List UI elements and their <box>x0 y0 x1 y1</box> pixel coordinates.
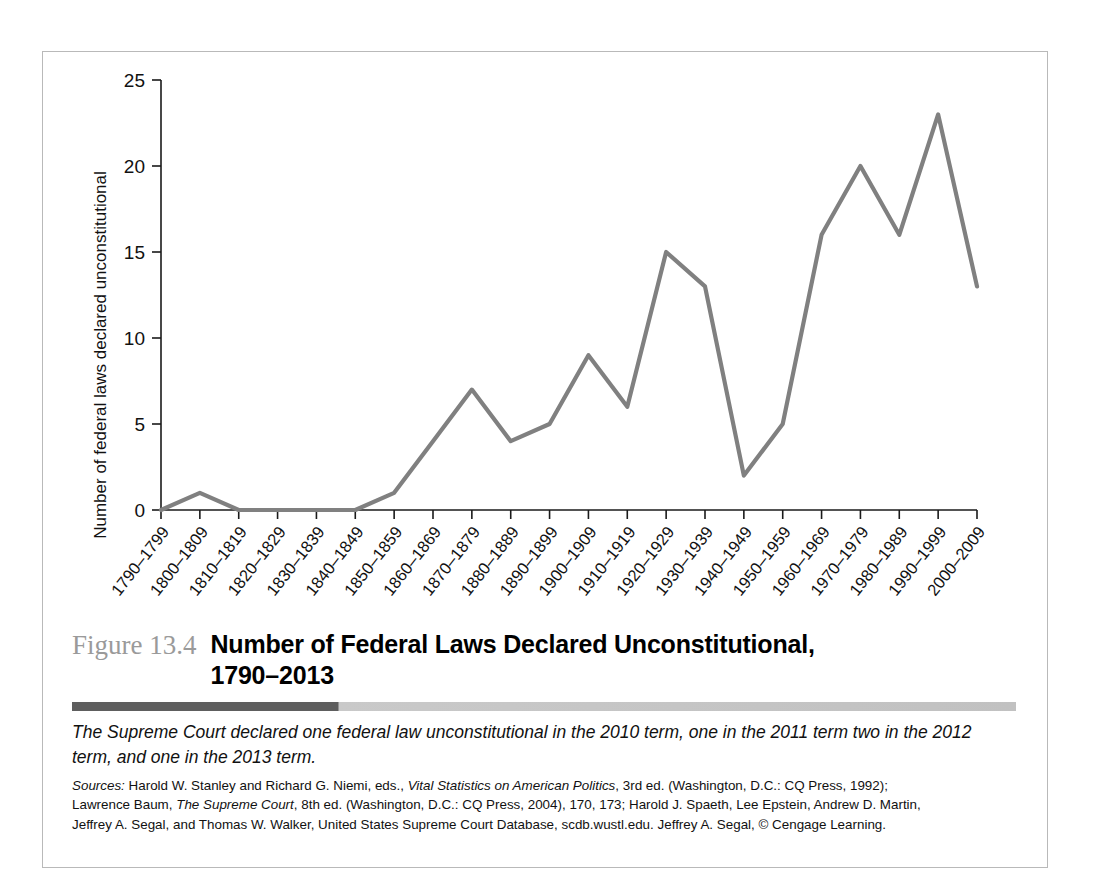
caption-block: Figure 13.4 Number of Federal Laws Decla… <box>72 629 1020 835</box>
figure-title-row: Figure 13.4 Number of Federal Laws Decla… <box>72 629 1020 690</box>
figure-sources: Sources: Harold W. Stanley and Richard G… <box>72 776 1024 835</box>
y-tick-label: 0 <box>134 500 145 521</box>
y-axis-ticks: 0510152025 <box>124 70 161 521</box>
figure-title: Number of Federal Laws Declared Unconsti… <box>211 629 815 690</box>
y-tick-label: 20 <box>124 156 145 177</box>
sources-line-1-italic: Vital Statistics on American Politics <box>408 778 616 793</box>
sources-line-1-text-b: , 3rd ed. (Washington, D.C.: CQ Press, 1… <box>615 778 888 793</box>
figure-number: Figure 13.4 <box>72 629 197 661</box>
x-axis-ticks: 1790–17991800–18091810–18191820–18291830… <box>107 510 988 599</box>
y-tick-label: 15 <box>124 242 145 263</box>
y-tick-label: 10 <box>124 328 145 349</box>
y-axis-title: Number of federal laws declared unconsti… <box>91 171 110 539</box>
figure-title-line-1: Number of Federal Laws Declared Unconsti… <box>211 630 815 658</box>
figure-title-line-2: 1790–2013 <box>211 661 334 689</box>
sources-label: Sources: <box>72 778 125 793</box>
sources-line-2-text-b: , 8th ed. (Washington, D.C.: CQ Press, 2… <box>294 797 921 812</box>
y-tick-label: 25 <box>124 70 145 91</box>
y-axis-title-label: Number of federal laws declared unconsti… <box>91 171 110 539</box>
sources-line-2-italic: The Supreme Court <box>176 797 294 812</box>
line-chart: Number of federal laws declared unconsti… <box>43 52 1049 632</box>
decorative-rule-bar <box>72 702 1016 711</box>
chart-area: Number of federal laws declared unconsti… <box>43 52 1049 632</box>
data-series-line <box>161 114 977 510</box>
figure-note: The Supreme Court declared one federal l… <box>72 720 1016 770</box>
y-tick-label: 5 <box>134 414 145 435</box>
figure-frame: Number of federal laws declared unconsti… <box>42 51 1048 868</box>
sources-line-1: Sources: Harold W. Stanley and Richard G… <box>72 776 1024 796</box>
sources-line-3: Jeffrey A. Segal, and Thomas W. Walker, … <box>72 815 1024 835</box>
sources-line-1-text-a: Harold W. Stanley and Richard G. Niemi, … <box>125 778 408 793</box>
sources-line-2: Lawrence Baum, The Supreme Court, 8th ed… <box>72 795 1024 815</box>
sources-line-2-text-a: Lawrence Baum, <box>72 797 176 812</box>
